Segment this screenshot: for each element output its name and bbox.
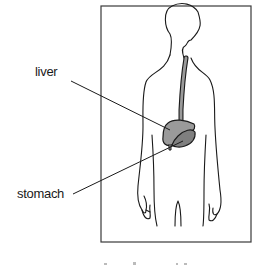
- stomach-label: stomach: [17, 187, 64, 200]
- liver-leader-line: [71, 81, 170, 130]
- cropped-caption-fragments: [0, 255, 255, 265]
- esophagus: [181, 58, 186, 122]
- liver-label: liver: [35, 65, 57, 78]
- anatomy-diagram: [0, 0, 255, 265]
- stomach-leader-line: [73, 141, 183, 194]
